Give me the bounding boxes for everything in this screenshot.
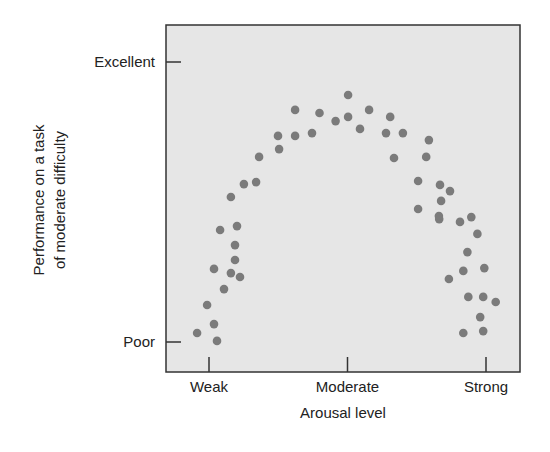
data-point — [252, 178, 261, 187]
data-point — [216, 226, 225, 235]
data-point — [464, 293, 473, 302]
data-point — [435, 212, 444, 221]
svg-text:Performance on a task: Performance on a task — [30, 124, 47, 275]
data-point — [210, 265, 219, 274]
data-point — [382, 129, 391, 138]
x-tick-label: Moderate — [316, 378, 379, 395]
data-point — [386, 113, 395, 122]
data-point — [231, 241, 240, 250]
x-tick-label: Weak — [190, 378, 229, 395]
data-point — [390, 154, 399, 163]
data-point — [480, 264, 489, 273]
data-point — [479, 293, 488, 302]
data-point — [344, 113, 353, 122]
data-point — [473, 230, 482, 239]
data-point — [193, 329, 202, 338]
data-point — [240, 180, 249, 189]
data-point — [227, 269, 236, 278]
data-point — [231, 256, 240, 265]
data-point — [255, 153, 264, 162]
data-point — [414, 205, 423, 214]
data-point — [315, 109, 324, 118]
data-point — [436, 181, 445, 190]
data-point — [356, 125, 365, 134]
data-point — [220, 285, 229, 294]
data-point — [491, 298, 500, 307]
y-tick-label: Excellent — [94, 53, 156, 70]
data-point — [365, 106, 374, 115]
plot-area — [166, 25, 520, 372]
scatter-chart: PoorExcellent WeakModerateStrong Arousal… — [0, 0, 550, 452]
y-axis-label: Performance on a task of moderate diffic… — [30, 124, 68, 275]
data-point — [425, 136, 434, 145]
data-point — [203, 301, 212, 310]
data-point — [275, 145, 284, 154]
data-point — [399, 129, 408, 138]
data-point — [227, 193, 236, 202]
data-point — [456, 218, 465, 227]
data-point — [274, 132, 283, 141]
data-point — [463, 248, 472, 257]
data-point — [437, 197, 446, 206]
y-tick-label: Poor — [123, 333, 155, 350]
data-point — [459, 329, 468, 338]
svg-text:of moderate difficulty: of moderate difficulty — [51, 130, 68, 269]
data-point — [291, 132, 300, 141]
data-point — [291, 106, 300, 115]
data-point — [422, 153, 431, 162]
data-point — [445, 275, 454, 284]
x-tick-label: Strong — [464, 378, 508, 395]
data-point — [213, 337, 222, 346]
data-point — [331, 117, 340, 126]
data-point — [236, 273, 245, 282]
data-point — [446, 187, 455, 196]
data-point — [479, 327, 488, 336]
data-point — [467, 213, 476, 222]
data-point — [476, 313, 485, 322]
data-point — [414, 177, 423, 186]
data-point — [308, 129, 317, 138]
x-axis-label: Arousal level — [300, 404, 386, 421]
data-point — [210, 320, 219, 329]
data-point — [459, 267, 468, 276]
data-point — [233, 222, 242, 231]
data-point — [344, 91, 353, 100]
